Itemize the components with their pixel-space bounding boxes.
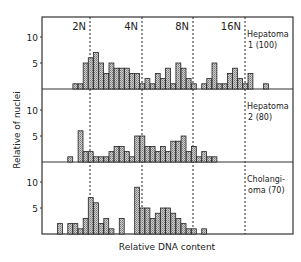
histogram-bar (181, 224, 186, 234)
histogram-bar (222, 84, 227, 89)
histogram-bar (202, 84, 207, 89)
histogram-bar (155, 73, 160, 89)
histogram-bar (176, 141, 181, 162)
ploidy-lines (90, 17, 245, 234)
histogram-bar (83, 152, 88, 162)
histogram-bar (109, 63, 114, 89)
y-axis-label: Relative of nuclei (12, 91, 22, 169)
histogram-bar (227, 73, 232, 89)
histogram-bar (94, 203, 99, 234)
histogram-bar (58, 224, 63, 234)
tick-5: 5 (32, 59, 38, 69)
histogram-bar (150, 146, 155, 162)
histogram-bar (124, 152, 129, 162)
histogram-bar (186, 79, 191, 89)
histogram-bar (68, 224, 73, 234)
histogram-bar (171, 213, 176, 234)
histogram-bar (119, 218, 124, 234)
histogram-bar (212, 63, 217, 89)
histogram-figure: 2N 4N 8N 16N Hepatoma 1 (100) Hepatoma 2… (0, 0, 301, 262)
histogram-bar (176, 218, 181, 234)
histogram-bar (124, 68, 129, 89)
panel1-label-line2: 1 (100) (248, 41, 277, 50)
histogram-bar (171, 84, 176, 89)
histogram-bar (114, 68, 119, 89)
histogram-bar (160, 146, 165, 162)
histogram-bar (135, 187, 140, 234)
marker-2n: 2N (72, 21, 86, 32)
histogram-bar (94, 53, 99, 89)
histogram-bar (83, 63, 88, 89)
histogram-bar (186, 152, 191, 162)
tick-10: 10 (27, 178, 39, 188)
histogram-bar (171, 141, 176, 162)
histogram-bar (68, 157, 73, 162)
histogram-bar (181, 68, 186, 89)
histogram-bar (150, 218, 155, 234)
histogram-bar (264, 84, 269, 89)
histogram-bar (166, 68, 171, 89)
histogram-bar (130, 157, 135, 162)
tick-5: 5 (32, 204, 38, 214)
histogram-bar (140, 136, 145, 162)
histogram-bar (150, 84, 155, 89)
panel2-label-line2: 2 (80) (248, 113, 272, 122)
histogram-bar (88, 152, 93, 162)
tick-10: 10 (27, 106, 39, 116)
panel3-label-line1: Cholangi- (247, 175, 285, 184)
histogram-bar (119, 68, 124, 89)
histogram-bar (73, 224, 78, 234)
histogram-bar (233, 68, 238, 89)
histogram-bar (160, 79, 165, 89)
histogram-bar (78, 131, 83, 162)
histogram-bar (145, 146, 150, 162)
histogram-bar (160, 208, 165, 234)
histogram-bar (130, 73, 135, 89)
marker-4n: 4N (124, 21, 138, 32)
histogram-bar (140, 208, 145, 234)
histogram-bar (99, 63, 104, 89)
histogram-bar (191, 229, 196, 234)
histogram-bar (243, 84, 248, 89)
histogram-bar (197, 157, 202, 162)
histogram-bar (191, 84, 196, 89)
histogram-bar (99, 224, 104, 234)
histogram-bar (78, 84, 83, 89)
histogram-bar (186, 229, 191, 234)
histogram-bar (83, 218, 88, 234)
histogram-bar (166, 208, 171, 234)
histogram-bar (207, 79, 212, 89)
histogram-bar (135, 73, 140, 89)
histogram-bar (248, 73, 253, 89)
histogram-bar (145, 208, 150, 234)
histogram-bar (238, 79, 243, 89)
histogram-bar (145, 79, 150, 89)
marker-16n: 16N (221, 21, 241, 32)
tick-10: 10 (27, 33, 39, 43)
panel3-label-line2: oma (70) (248, 186, 285, 195)
histogram-bar (155, 213, 160, 234)
histogram-bars (58, 53, 269, 234)
histogram-bar (78, 229, 83, 234)
histogram-bar (212, 157, 217, 162)
histogram-bar (99, 157, 104, 162)
histogram-bar (114, 146, 119, 162)
histogram-bar (176, 63, 181, 89)
histogram-bar (104, 218, 109, 234)
histogram-bar (181, 136, 186, 162)
panel1-label-line1: Hepatoma (247, 30, 289, 39)
histogram-bar (88, 58, 93, 89)
histogram-bar (155, 152, 160, 162)
histogram-bar (104, 157, 109, 162)
histogram-bar (135, 136, 140, 162)
histogram-bar (166, 152, 171, 162)
tick-5: 5 (32, 132, 38, 142)
histogram-bar (191, 146, 196, 162)
histogram-bar (73, 84, 78, 89)
x-axis-label: Relative DNA content (119, 242, 216, 252)
panel2-label-line1: Hepatoma (247, 102, 289, 111)
histogram-bar (94, 157, 99, 162)
histogram-bar (202, 229, 207, 234)
histogram-bar (104, 73, 109, 89)
histogram-bar (109, 229, 114, 234)
